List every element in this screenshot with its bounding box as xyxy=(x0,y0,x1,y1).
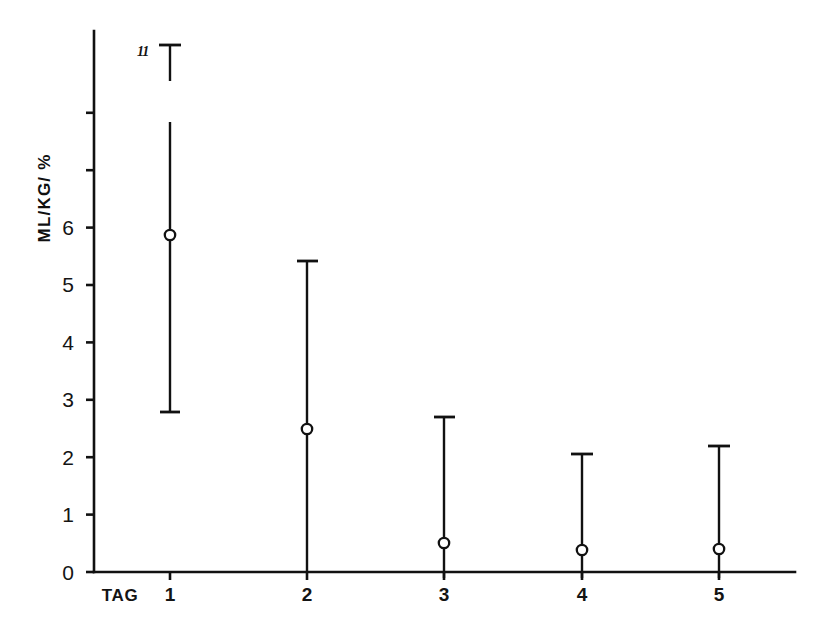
y-tick-label-6: 6 xyxy=(48,216,74,240)
x-tick-label-2: 2 xyxy=(287,584,327,606)
datapoint-day-3 xyxy=(434,417,455,578)
y-tick-label-0: 0 xyxy=(48,561,74,585)
y-tick-label-5: 5 xyxy=(48,273,74,297)
x-tick-label-4: 4 xyxy=(562,584,602,606)
marker-day-3 xyxy=(439,538,449,548)
annotation-upper-limit-day-1: 11 xyxy=(137,44,148,60)
datapoint-day-4 xyxy=(571,454,593,578)
y-tick-label-1: 1 xyxy=(48,503,74,527)
y-tick-label-4: 4 xyxy=(48,331,74,355)
y-axis-title: ML/KG/ % xyxy=(30,108,60,288)
x-axis-title: TAG xyxy=(92,586,148,606)
marker-day-4 xyxy=(577,545,587,555)
datapoint-day-1 xyxy=(159,45,181,412)
marker-day-5 xyxy=(714,544,724,554)
datapoint-day-5 xyxy=(708,446,730,578)
x-tick-label-1: 1 xyxy=(150,584,190,606)
marker-day-2 xyxy=(302,424,312,434)
chart-figure: 11 ML/KG/ % 6 5 4 3 2 1 0 TAG 1 2 3 4 5 xyxy=(0,0,818,631)
y-tick-label-3: 3 xyxy=(48,388,74,412)
x-tick-label-3: 3 xyxy=(424,584,464,606)
y-tick-label-2: 2 xyxy=(48,446,74,470)
x-tick-label-5: 5 xyxy=(699,584,739,606)
chart-plot-area xyxy=(0,0,818,631)
marker-day-1 xyxy=(165,230,175,240)
datapoint-day-2 xyxy=(297,261,318,572)
